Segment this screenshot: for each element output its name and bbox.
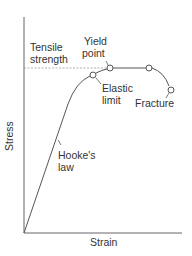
- tensile-strength-label: Tensile strength: [30, 41, 68, 65]
- yield-label-line1: Yield: [82, 35, 107, 47]
- yield-point-marker-icon: [107, 65, 113, 71]
- y-axis-label: Stress: [3, 121, 15, 151]
- stress-strain-diagram: Tensile strength Yield point Elastic lim…: [0, 0, 192, 256]
- tensile-label-line2: strength: [30, 53, 68, 65]
- elastic-limit-marker-icon: [90, 72, 96, 78]
- y-axis-label-container: Stress: [4, 118, 18, 154]
- hookes-law-label: Hooke's law: [58, 149, 96, 173]
- elastic-label-line2: limit: [102, 94, 133, 106]
- necking-curve: [152, 68, 169, 86]
- yield-label-line2: point: [82, 47, 107, 59]
- x-axis-label: Strain: [90, 236, 117, 248]
- hookes-label-line2: law: [58, 161, 96, 173]
- elastic-leader: [96, 78, 101, 84]
- fracture-label: Fracture: [135, 97, 174, 109]
- tensile-label-line1: Tensile: [30, 41, 68, 53]
- elastic-limit-label: Elastic limit: [102, 82, 133, 106]
- tensile-strength-marker-icon: [146, 65, 152, 71]
- transition-curve: [96, 69, 107, 73]
- hookes-leader: [58, 140, 61, 145]
- fracture-marker-icon: [168, 87, 174, 93]
- hookes-label-line1: Hooke's: [58, 149, 96, 161]
- yield-point-label: Yield point: [82, 35, 107, 59]
- elastic-label-line1: Elastic: [102, 82, 133, 94]
- yield-leader: [106, 61, 108, 65]
